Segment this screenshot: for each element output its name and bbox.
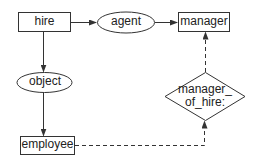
node-employee-label: employee: [20, 138, 75, 151]
node-object-label: object: [17, 75, 73, 88]
node-manager-of-hire-label-line2: of_hire:: [175, 96, 235, 109]
node-manager-label: manager: [178, 15, 230, 28]
node-agent-label: agent: [97, 15, 155, 28]
edge-employee-manager-of-hire: [75, 122, 205, 146]
node-hire-label: hire: [18, 15, 71, 28]
